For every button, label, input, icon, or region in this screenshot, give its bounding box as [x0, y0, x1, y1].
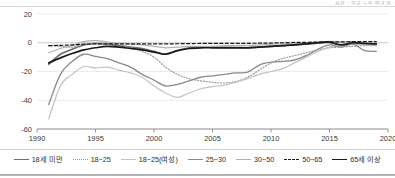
y-tick-label: -60 — [21, 125, 32, 134]
plot-area: 200-20-40-60 199019952000200520102015202… — [0, 8, 395, 141]
source-note: 자료 : 한국 노동 연구원 — [335, 0, 391, 5]
top-divider — [0, 6, 395, 7]
gridlines — [37, 14, 388, 129]
legend-item-6[interactable]: 65세 이상 — [332, 156, 381, 164]
legend-swatch-icon — [73, 159, 88, 160]
x-tick-label: 2020 — [380, 134, 395, 141]
x-tick-label: 1990 — [29, 134, 46, 141]
x-tick-label: 1995 — [87, 134, 104, 141]
legend-item-4[interactable]: 30~50 — [236, 156, 274, 164]
x-tick-label: 2000 — [146, 134, 163, 141]
y-tick-label: 20 — [24, 10, 32, 19]
legend-item-5[interactable]: 50~65 — [284, 156, 322, 164]
line-chart-svg: 200-20-40-60 199019952000200520102015202… — [0, 8, 395, 141]
axes — [37, 129, 388, 133]
x-tick-label: 2015 — [321, 134, 338, 141]
x-tick-label: 2010 — [263, 134, 280, 141]
legend-label: 18세 미만 — [32, 156, 63, 164]
legend-swatch-icon — [236, 159, 251, 160]
chart-figure: 자료 : 한국 노동 연구원 200-20-40-60 199019952000… — [0, 0, 395, 178]
series-lines — [49, 41, 377, 119]
legend-swatch-icon — [14, 159, 29, 160]
series-line — [49, 44, 377, 104]
legend-swatch-icon — [284, 159, 299, 160]
y-tick-labels: 200-20-40-60 — [21, 10, 32, 134]
legend-item-1[interactable]: 18~25 — [73, 156, 111, 164]
y-tick-label: -40 — [21, 96, 32, 105]
legend-item-3[interactable]: 25~30 — [188, 156, 226, 164]
legend-label: 25~30 — [206, 156, 226, 164]
legend-label: 18~25(여성) — [139, 156, 178, 164]
bottom-divider — [0, 174, 395, 176]
legend-swatch-icon — [332, 159, 347, 160]
legend-label: 30~50 — [254, 156, 274, 164]
x-tick-label: 2005 — [204, 134, 221, 141]
legend-label: 18~25 — [91, 156, 111, 164]
legend-item-0[interactable]: 18세 미만 — [14, 156, 63, 164]
legend-swatch-icon — [121, 159, 136, 160]
legend-swatch-icon — [188, 159, 203, 160]
legend-label: 50~65 — [302, 156, 322, 164]
x-tick-labels: 1990199520002005201020152020 — [29, 134, 395, 141]
y-tick-label: 0 — [28, 38, 32, 47]
legend-label: 65세 이상 — [350, 156, 381, 164]
series-line — [49, 44, 377, 119]
series-line — [49, 43, 377, 83]
y-tick-label: -20 — [21, 67, 32, 76]
legend-item-2[interactable]: 18~25(여성) — [121, 156, 178, 164]
chart-legend: 18세 미만18~2518~25(여성)25~3030~5050~6565세 이… — [0, 149, 395, 169]
